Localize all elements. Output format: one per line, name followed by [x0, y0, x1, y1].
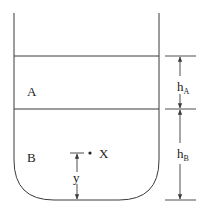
point-x-label: X	[99, 146, 109, 161]
layer-b-label: B	[27, 150, 36, 165]
ha-label-sub: A	[184, 87, 190, 96]
point-x-dot	[88, 151, 91, 154]
hb-label: hB	[177, 146, 189, 163]
hb-label-sub: B	[184, 154, 189, 163]
layer-a-label: A	[27, 84, 37, 99]
y-label: y	[73, 170, 80, 185]
ha-label: hA	[177, 79, 190, 96]
container-outline	[14, 13, 159, 200]
diagram: A B X y hA hB	[0, 0, 205, 212]
